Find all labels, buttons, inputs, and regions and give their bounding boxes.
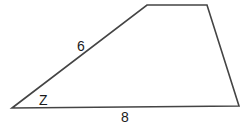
trapezoid-figure — [0, 0, 249, 126]
base-length-label: 8 — [121, 110, 129, 124]
diagram-canvas: 6 Z 8 — [0, 0, 249, 126]
left-side-length-label: 6 — [77, 39, 85, 53]
angle-z-label: Z — [39, 93, 48, 107]
